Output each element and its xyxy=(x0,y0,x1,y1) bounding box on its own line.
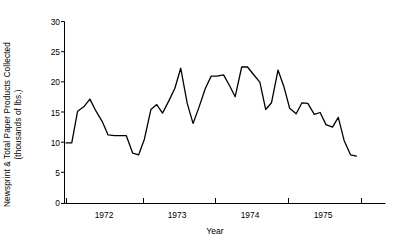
y-tick-label-15: 15 xyxy=(38,109,60,118)
x-tick-label-1972: 1972 xyxy=(84,211,124,220)
y-tick-label-0: 0 xyxy=(38,199,60,208)
x-tick-label-1975: 1975 xyxy=(303,211,343,220)
x-tick-marks xyxy=(67,198,362,204)
x-axis-title: Year xyxy=(185,226,245,236)
y-tick-label-20: 20 xyxy=(38,78,60,87)
y-tick-label-30: 30 xyxy=(38,18,60,27)
y-tick-marks xyxy=(61,22,65,204)
y-tick-label-10: 10 xyxy=(38,139,60,148)
x-tick-label-1974: 1974 xyxy=(230,211,270,220)
y-tick-label-25: 25 xyxy=(38,48,60,57)
chart-figure: Newsprint & Total Paper Products Collect… xyxy=(0,0,398,249)
y-tick-label-5: 5 xyxy=(38,169,60,178)
data-series-line xyxy=(66,67,357,156)
x-tick-label-1973: 1973 xyxy=(157,211,197,220)
